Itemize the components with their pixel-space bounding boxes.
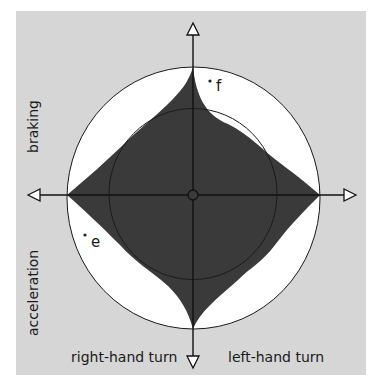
point-f-label: f <box>216 77 221 95</box>
axis-label-left-hand-turn: left-hand turn <box>228 349 324 365</box>
axis-label-acceleration: acceleration <box>25 250 41 336</box>
axis-label-braking: braking <box>25 100 41 153</box>
origin-marker <box>188 190 198 200</box>
point-e-label: e <box>91 233 100 251</box>
point-f-marker <box>208 79 211 82</box>
axis-label-right-hand-turn: right-hand turn <box>71 349 177 365</box>
friction-circle-diagram <box>0 0 379 387</box>
point-e-marker <box>83 233 86 236</box>
